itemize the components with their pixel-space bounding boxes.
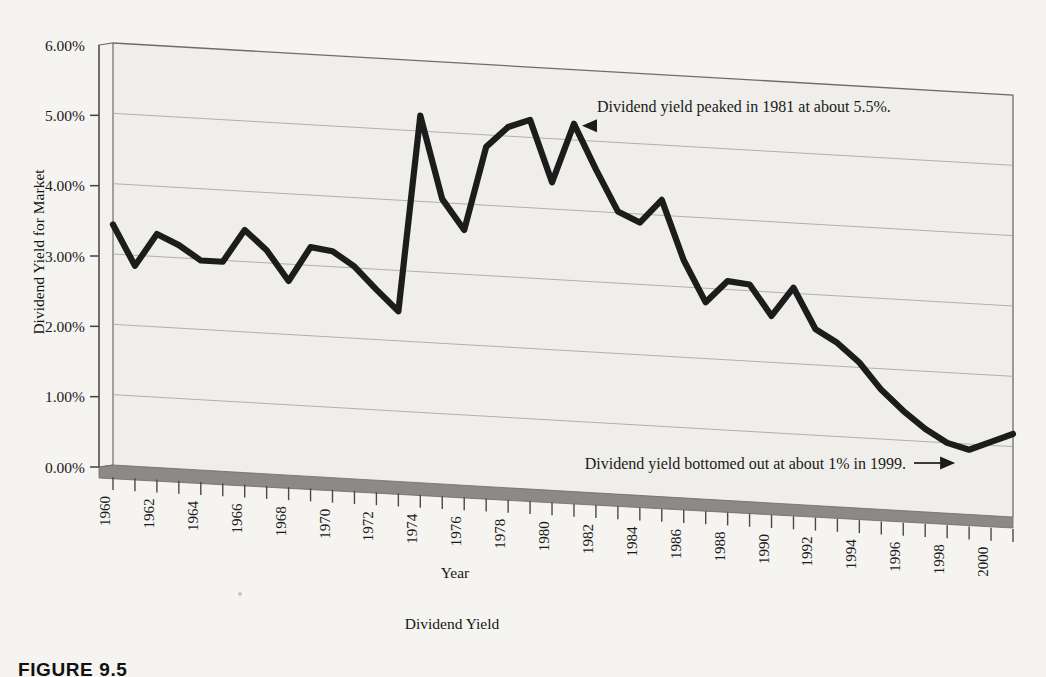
x-axis-title: Year <box>441 564 470 581</box>
y-tick-label-3.00%: 3.00% <box>45 248 85 265</box>
y-axis-title: Dividend Yield for Market <box>30 169 47 335</box>
x-tick-label-1966: 1966 <box>229 503 245 534</box>
y-tick-label-0.00%: 0.00% <box>45 459 85 476</box>
x-tick-label-1964: 1964 <box>185 501 201 532</box>
x-tick-label-1970: 1970 <box>317 509 333 539</box>
peak-annotation-text: Dividend yield peaked in 1981 at about 5… <box>597 98 891 116</box>
bottom-annotation-text: Dividend yield bottomed out at about 1% … <box>585 455 906 473</box>
x-tick-label-2000: 2000 <box>975 547 991 577</box>
y-tick-label-5.00%: 5.00% <box>45 107 85 124</box>
x-tick-label-1976: 1976 <box>448 516 464 547</box>
figure-number-caption: FIGURE 9.5 <box>18 659 127 677</box>
y-tick-label-4.00%: 4.00% <box>45 177 85 194</box>
x-tick-label-1960: 1960 <box>97 496 113 526</box>
figure-root: 0.00%1.00%2.00%3.00%4.00%5.00%6.00% 1960… <box>0 0 1046 677</box>
bottom-annotation: Dividend yield bottomed out at about 1% … <box>585 455 955 473</box>
y-tick-label-6.00%: 6.00% <box>45 37 85 54</box>
x-tick-label-1982: 1982 <box>580 524 596 554</box>
y-tick-label-1.00%: 1.00% <box>45 388 85 405</box>
x-tick-label-1988: 1988 <box>712 532 728 562</box>
plot-left-wall <box>99 43 113 467</box>
x-tick-label-1972: 1972 <box>360 511 376 541</box>
x-tick-label-1980: 1980 <box>536 521 552 551</box>
x-tick-label-1998: 1998 <box>931 544 947 574</box>
y-tick-label-2.00%: 2.00% <box>45 318 85 335</box>
x-tick-label-1974: 1974 <box>404 513 420 544</box>
x-tick-label-1978: 1978 <box>492 519 508 549</box>
x-tick-label-1994: 1994 <box>843 539 859 570</box>
x-tick-label-1984: 1984 <box>624 526 640 557</box>
x-tick-label-1986: 1986 <box>668 528 684 559</box>
chart-bottom-caption: Dividend Yield <box>405 615 500 632</box>
x-tick-label-1996: 1996 <box>887 541 903 572</box>
x-tick-label-1990: 1990 <box>756 534 772 564</box>
x-tick-label-1968: 1968 <box>273 506 289 536</box>
x-tick-label-1992: 1992 <box>799 537 815 567</box>
x-tick-label-1962: 1962 <box>141 499 157 529</box>
page-speck <box>238 592 242 596</box>
dividend-yield-line-chart: 0.00%1.00%2.00%3.00%4.00%5.00%6.00% 1960… <box>0 0 1046 677</box>
